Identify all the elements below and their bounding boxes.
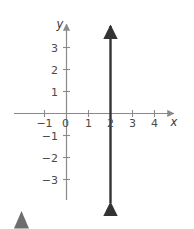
x-tick-label-2: 2 (107, 117, 114, 130)
y-tick-label-neg1: −1 (42, 130, 58, 143)
y-tick-label-2: 2 (51, 64, 58, 77)
y-tick-label-neg2: −2 (42, 152, 58, 165)
x-tick-label-neg1: −1 (36, 117, 52, 130)
x-axis-label: x (170, 115, 178, 129)
y-axis-label: y (56, 17, 64, 31)
x-axis (14, 110, 174, 117)
y-tick-label-1: 1 (51, 86, 58, 99)
x-tick-label-0: 0 (62, 117, 69, 130)
x-tick-label-4: 4 (151, 117, 158, 130)
x-tick-label-3: 3 (129, 117, 136, 130)
y-tick-label-3: 3 (51, 42, 58, 55)
coordinate-plane: −1 0 1 2 3 4 3 2 1 −1 −2 −3 y x (0, 0, 194, 229)
y-axis (63, 24, 70, 200)
x-tick-label-1: 1 (85, 117, 92, 130)
triangle-marker-icon (14, 211, 29, 229)
y-tick-label-neg3: −3 (42, 174, 58, 187)
graph-figure: −1 0 1 2 3 4 3 2 1 −1 −2 −3 y x (0, 0, 194, 229)
